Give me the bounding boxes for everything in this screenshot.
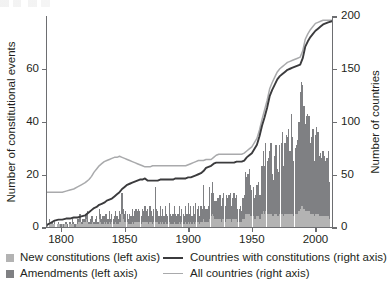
bottom-tick-label: 2000: [303, 234, 329, 246]
right-tick-mark: [332, 227, 337, 228]
page-header-artifact: [0, 0, 60, 7]
bottom-tick-mark: [125, 227, 126, 232]
chart-canvas: [47, 16, 332, 227]
right-tick-label: 150: [341, 63, 360, 75]
legend-line-countries-with-constitutions: [163, 257, 183, 259]
left-tick-mark: [42, 227, 47, 228]
left-tick-label: 20: [26, 169, 39, 181]
bottom-tick-label: 1800: [48, 234, 74, 246]
legend-swatch-new-constitutions: [6, 254, 14, 262]
legend-item-countries-with-constitutions: Countries with constitutions (right axis…: [163, 250, 387, 265]
bottom-tick-mark: [315, 227, 316, 232]
right-tick-label: 100: [341, 116, 360, 128]
right-tick-label: 50: [341, 169, 354, 181]
left-tick-label: 40: [26, 116, 39, 128]
bottom-tick-label: 1950: [239, 234, 265, 246]
bottom-tick-label: 1850: [112, 234, 138, 246]
bottom-tick-mark: [188, 227, 189, 232]
legend-label-countries-with-constitutions: Countries with constitutions (right axis…: [190, 252, 387, 264]
bottom-tick-mark: [61, 227, 62, 232]
bottom-tick-mark: [252, 227, 253, 232]
left-axis-title: Number of constitutional events: [6, 41, 18, 202]
left-tick-mark: [42, 175, 47, 176]
chart-legend: New constitutions (left axis) Amendments…: [6, 250, 386, 284]
left-tick-label: 60: [26, 63, 39, 75]
right-tick-mark: [332, 122, 337, 123]
left-tick-mark: [42, 122, 47, 123]
left-tick-mark: [42, 69, 47, 70]
right-tick-mark: [332, 16, 337, 17]
plot-area: 0204060 050100150200 1800185019001950200…: [46, 16, 332, 228]
series-plot: [47, 16, 332, 227]
legend-label-new-constitutions: New constitutions (left axis): [20, 252, 160, 264]
right-tick-mark: [332, 69, 337, 70]
legend-label-amendments: Amendments (left axis): [20, 268, 138, 280]
legend-label-all-countries: All countries (right axis): [190, 268, 310, 280]
right-tick-label: 200: [341, 11, 360, 23]
right-tick-mark: [332, 175, 337, 176]
legend-line-all-countries: [163, 273, 183, 274]
legend-item-all-countries: All countries (right axis): [163, 266, 310, 281]
legend-item-new-constitutions: New constitutions (left axis): [6, 250, 160, 265]
chart-figure: 0204060 050100150200 1800185019001950200…: [0, 0, 390, 288]
right-tick-label: 0: [341, 222, 347, 234]
series-amendments: [49, 82, 330, 227]
bottom-tick-label: 1900: [175, 234, 201, 246]
legend-swatch-amendments: [6, 270, 14, 278]
legend-item-amendments: Amendments (left axis): [6, 266, 138, 281]
right-axis-title: Number of countries: [370, 70, 382, 174]
left-tick-label: 0: [33, 222, 39, 234]
